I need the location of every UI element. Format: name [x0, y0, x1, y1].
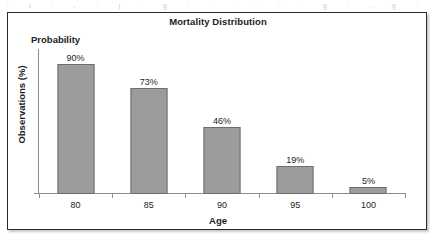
x-tick-label: 80 — [71, 200, 81, 210]
screenshot-root: · ı · , · ȷ · ɡ · · · · · · ɡ · , ɡ · , … — [0, 0, 435, 240]
x-tick-label: 85 — [144, 200, 154, 210]
series-label: Probability — [31, 34, 80, 45]
scan-artifact-strip: · ı · , · ȷ · ɡ · · · · · · ɡ · , ɡ · , … — [0, 0, 435, 12]
x-axis-title: Age — [8, 215, 428, 226]
bar-value-label: 90% — [67, 53, 85, 63]
bar[interactable]: 73% — [130, 88, 167, 194]
x-tick-label: 95 — [290, 200, 300, 210]
bar[interactable]: 90% — [57, 64, 94, 195]
bar-slot: 73% — [112, 49, 185, 194]
x-tick-label: 100 — [361, 200, 376, 210]
bar-value-label: 5% — [362, 176, 375, 186]
bar-slot: 5% — [332, 49, 405, 194]
plot-area: Observations (%) Probability 90%73%46%19… — [8, 13, 428, 231]
bar-value-label: 19% — [286, 155, 304, 165]
x-axis-tick — [259, 194, 260, 198]
chart-figure-frame: Mortality Distribution Observations (%) … — [7, 12, 427, 230]
x-axis-tick — [405, 194, 406, 198]
y-axis-title: Observations (%) — [16, 45, 27, 165]
bar[interactable]: 5% — [350, 187, 387, 194]
x-axis-tick — [332, 194, 333, 198]
x-axis-tick — [112, 194, 113, 198]
x-axis-tick — [185, 194, 186, 198]
bar[interactable]: 46% — [203, 127, 240, 194]
x-tick-label: 90 — [217, 200, 227, 210]
bar-slot: 19% — [259, 49, 332, 194]
bar-value-label: 73% — [140, 77, 158, 87]
bars-container: 90%73%46%19%5% — [39, 49, 405, 194]
bar[interactable]: 19% — [277, 166, 314, 194]
x-axis-tick — [39, 194, 40, 198]
bar-slot: 90% — [39, 49, 112, 194]
bar-slot: 46% — [185, 49, 258, 194]
bar-value-label: 46% — [213, 116, 231, 126]
